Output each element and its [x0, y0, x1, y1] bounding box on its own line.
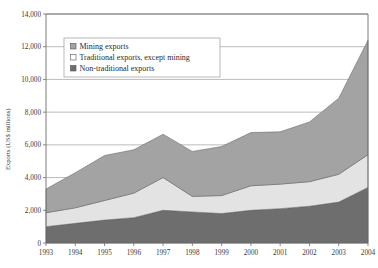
y-tick-label-0: 0 — [37, 240, 41, 248]
chart-legend: Mining exports Traditional exports, exce… — [64, 38, 220, 77]
y-tick-label-8000: 8,000 — [25, 109, 42, 117]
x-tick-label-1996: 1996 — [127, 249, 142, 257]
chart-canvas: 02,0004,0006,0008,00010,00012,00014,000 … — [0, 0, 378, 268]
legend-label-mining-exports: Mining exports — [80, 42, 129, 51]
x-tick-label-2004: 2004 — [361, 249, 376, 257]
x-tick-label-2003: 2003 — [332, 249, 347, 257]
y-tick-label-10000: 10,000 — [21, 76, 41, 84]
y-tick-label-2000: 2,000 — [25, 207, 42, 215]
y-axis-ticks-group: 02,0004,0006,0008,00010,00012,00014,000 — [21, 11, 46, 248]
y-tick-label-4000: 4,000 — [25, 174, 42, 182]
legend-label-traditional-exports: Traditional exports, except mining — [80, 53, 190, 62]
y-tick-label-12000: 12,000 — [21, 43, 41, 51]
y-tick-label-6000: 6,000 — [25, 141, 42, 149]
x-tick-label-2002: 2002 — [302, 249, 317, 257]
y-tick-label-14000: 14,000 — [21, 11, 41, 19]
x-tick-label-1993: 1993 — [39, 249, 54, 257]
legend-swatch-non-traditional-exports — [71, 66, 77, 72]
x-tick-label-1997: 1997 — [156, 249, 171, 257]
stacked-area-chart-figure: 02,0004,0006,0008,00010,00012,00014,000 … — [0, 0, 378, 268]
x-tick-label-1998: 1998 — [185, 249, 200, 257]
x-tick-label-2001: 2001 — [273, 249, 288, 257]
x-axis-ticks-group: 1993199419951996199719981999200020012002… — [39, 243, 376, 257]
y-axis-title: Exports (US$ millions) — [4, 108, 12, 170]
x-tick-label-1995: 1995 — [97, 249, 112, 257]
legend-label-non-traditional-exports: Non-traditional exports — [80, 64, 155, 73]
legend-swatch-traditional-exports — [71, 55, 77, 61]
x-tick-label-1999: 1999 — [214, 249, 229, 257]
x-tick-label-2000: 2000 — [244, 249, 259, 257]
legend-swatch-mining-exports — [71, 44, 77, 50]
x-tick-label-1994: 1994 — [68, 249, 83, 257]
